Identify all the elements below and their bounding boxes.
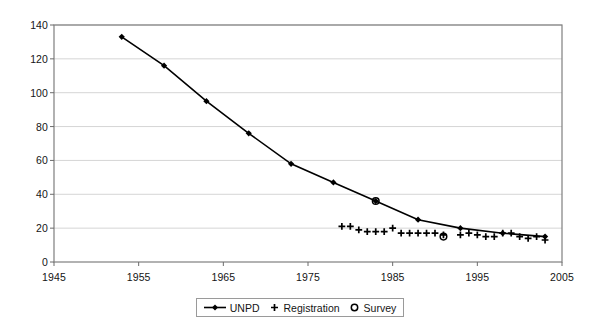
legend-item-survey: Survey [349, 302, 397, 314]
y-tick-label: 140 [0, 19, 48, 31]
legend-label: Registration [284, 302, 340, 314]
x-tick-label: 1995 [465, 271, 489, 283]
legend-label: UNPD [230, 302, 260, 314]
legend-label: Survey [364, 302, 397, 314]
x-tick-label: 1985 [381, 271, 405, 283]
circle-marker-icon [349, 302, 360, 313]
gridlines [54, 25, 562, 228]
chart-legend: UNPDRegistrationSurvey [196, 298, 404, 317]
x-tick-label: 2005 [550, 271, 574, 283]
plot-frame [54, 25, 562, 262]
x-tick-label: 1945 [42, 271, 66, 283]
y-tick-label: 0 [0, 256, 48, 268]
y-tick-label: 20 [0, 222, 48, 234]
data-series [119, 34, 549, 244]
legend-item-unpd: UNPD [204, 302, 260, 314]
x-tick-label: 1955 [127, 271, 151, 283]
plus-marker-icon [269, 302, 280, 313]
axis-tickmarks [50, 25, 562, 266]
legend-item-registration: Registration [269, 302, 340, 314]
y-tick-label: 100 [0, 87, 48, 99]
y-tick-label: 40 [0, 188, 48, 200]
line-diamond-marker-icon [204, 302, 226, 313]
y-tick-label: 60 [0, 154, 48, 166]
x-tick-label: 1975 [296, 271, 320, 283]
x-tick-label: 1965 [211, 271, 235, 283]
y-tick-label: 80 [0, 121, 48, 133]
chart-figure: 020406080100120140 194519551965197519851… [0, 0, 595, 329]
series-unpd [119, 34, 549, 240]
y-tick-label: 120 [0, 53, 48, 65]
